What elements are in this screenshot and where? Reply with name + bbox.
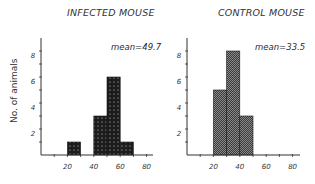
- x-tick-label: 40: [89, 163, 98, 171]
- histogram-figure: 246820406080mean=49.7 246820406080mean=3…: [0, 0, 315, 184]
- control-histogram: 246820406080mean=33.5: [177, 38, 305, 171]
- x-tick-label: 80: [142, 163, 151, 171]
- x-tick-label: 80: [288, 163, 297, 171]
- histogram-bar: [240, 116, 253, 155]
- mean-annotation: mean=49.7: [111, 42, 162, 52]
- infected-histogram: 246820406080mean=49.7: [31, 38, 162, 171]
- y-tick-label: 4: [31, 104, 35, 112]
- histogram-bar: [67, 142, 80, 155]
- y-tick-label: 4: [177, 104, 181, 112]
- y-tick-label: 8: [177, 52, 182, 60]
- x-tick-label: 60: [262, 163, 271, 171]
- histogram-bar: [94, 116, 107, 155]
- histogram-bar: [120, 142, 133, 155]
- x-tick-label: 40: [235, 163, 244, 171]
- y-tick-label: 2: [177, 130, 182, 138]
- y-tick-label: 6: [177, 78, 182, 86]
- x-tick-label: 20: [209, 163, 218, 171]
- y-tick-label: 2: [31, 130, 36, 138]
- x-tick-label: 20: [63, 163, 72, 171]
- x-tick-label: 60: [116, 163, 125, 171]
- mean-annotation: mean=33.5: [255, 42, 305, 52]
- histogram-bar: [107, 77, 120, 155]
- y-tick-label: 6: [31, 78, 36, 86]
- histogram-bar: [213, 90, 226, 155]
- y-tick-label: 8: [31, 52, 36, 60]
- histogram-bar: [227, 51, 240, 155]
